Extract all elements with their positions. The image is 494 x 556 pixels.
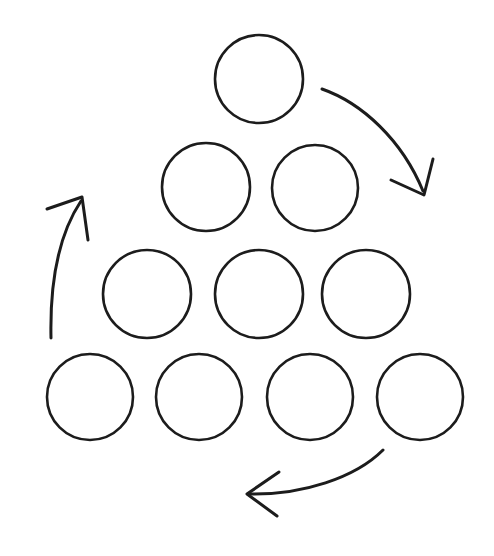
- circle-node-7[interactable]: [47, 354, 133, 440]
- arrow-left-ascending-shaft: [51, 201, 81, 338]
- arrow-left-ascending-head: [47, 197, 88, 240]
- circle-node-5[interactable]: [215, 250, 303, 338]
- circle-node-10[interactable]: [377, 354, 463, 440]
- circle-node-8[interactable]: [156, 354, 242, 440]
- circle-node-2[interactable]: [162, 143, 250, 231]
- diagram-canvas: Triangular arrangement of ten circles wi…: [0, 0, 494, 556]
- circle-row-1: [215, 35, 303, 123]
- arrow-bottom-leftward-shaft: [250, 450, 383, 494]
- circle-node-4[interactable]: [103, 250, 191, 338]
- circle-row-3: [103, 250, 410, 338]
- arrow-bottom-leftward-icon: [247, 450, 383, 516]
- arrow-right-descending-head: [391, 159, 433, 195]
- circle-node-6[interactable]: [322, 250, 410, 338]
- circle-node-9[interactable]: [267, 354, 353, 440]
- circle-cycle-diagram: [0, 0, 494, 556]
- circle-node-3[interactable]: [272, 145, 358, 231]
- circle-row-2: [162, 143, 358, 231]
- circle-row-4: [47, 354, 463, 440]
- arrow-left-ascending-icon: [47, 197, 88, 338]
- circle-node-1[interactable]: [215, 35, 303, 123]
